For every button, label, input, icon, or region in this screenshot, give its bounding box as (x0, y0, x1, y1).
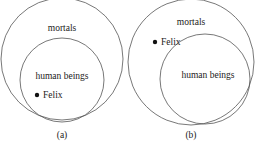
diagram-a: mortals human beings Felix (a) (1, 0, 123, 141)
felix-dot-icon (35, 93, 39, 97)
euler-diagrams: mortals human beings Felix (a) mortals h… (0, 0, 257, 145)
label-human-beings: human beings (181, 70, 234, 80)
label-mortals: mortals (177, 17, 206, 27)
diagram-b: mortals human beings Felix (b) (128, 0, 254, 141)
label-human-beings: human beings (35, 71, 88, 81)
caption-b: (b) (185, 130, 196, 141)
label-felix: Felix (161, 37, 181, 47)
label-mortals: mortals (48, 23, 77, 33)
felix-dot-icon (153, 40, 157, 44)
label-felix: Felix (43, 90, 63, 100)
caption-a: (a) (57, 130, 68, 141)
outer-circle-mortals (1, 0, 123, 120)
